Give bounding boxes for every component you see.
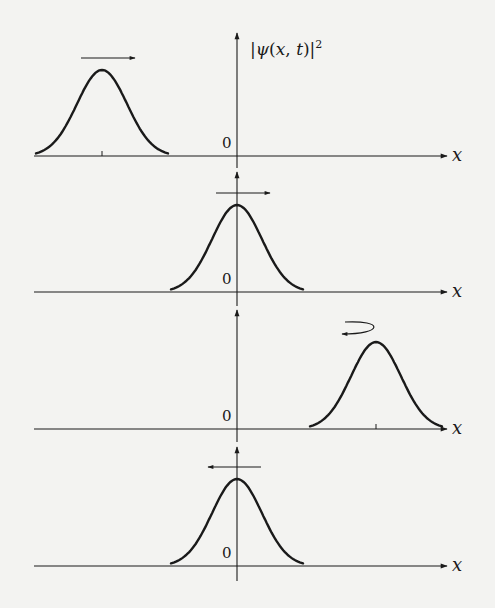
wavepacket-curve [36,70,168,153]
origin-label: 0 [222,407,232,425]
x-axis-label: x [452,417,462,438]
x-axis-label: x [452,144,462,165]
wavepacket-curve [310,342,442,426]
y-axis-label: |ψ(x, t)|2 [250,38,322,59]
wavepacket-diagram: x0x0x0x0 |ψ(x, t)|2 [0,0,495,608]
origin-label: 0 [222,270,232,288]
x-axis-label: x [452,554,462,575]
panel-t2: x0 [34,172,462,306]
panel-t4: x0 [34,447,462,581]
panel-t1: x0 [34,33,462,168]
x-axis-label: x [452,280,462,301]
origin-label: 0 [222,134,232,152]
panel-t3: x0 [34,310,462,442]
reverse-arrow-icon [342,322,374,334]
origin-label: 0 [222,544,232,562]
